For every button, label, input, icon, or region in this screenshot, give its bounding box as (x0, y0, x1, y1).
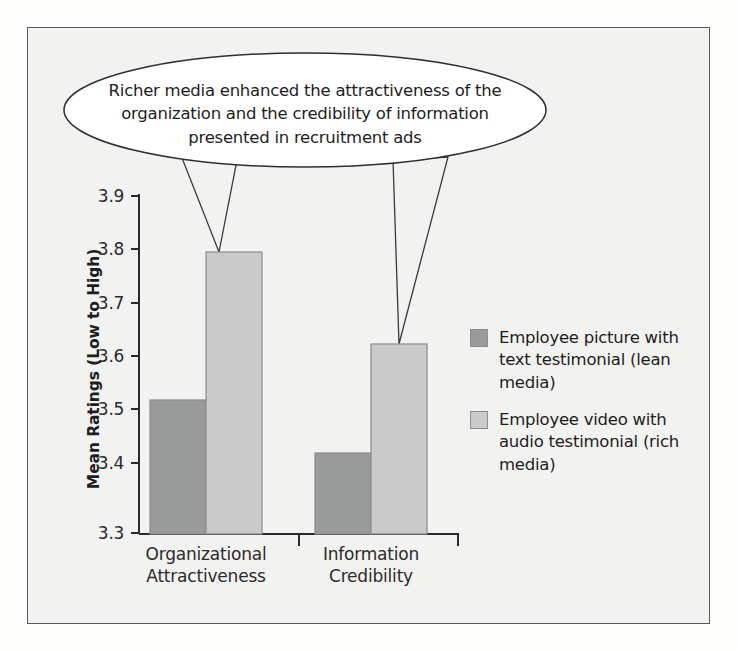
legend-entry-lean-media[interactable]: Employee picture with text testimonial (… (470, 327, 683, 394)
legend-entry-rich-media[interactable]: Employee video with audio testimonial (r… (470, 409, 683, 476)
y-tick-label-3-7: 3.7 (78, 293, 124, 313)
y-tick-label-3-4: 3.4 (78, 453, 124, 473)
callout-annotation-text: Richer media enhanced the attractiveness… (108, 79, 502, 149)
y-tick-label-3-9: 3.9 (78, 186, 124, 206)
y-tick-label-3-8: 3.8 (78, 239, 124, 259)
chart-figure: Richer media enhanced the attractiveness… (0, 0, 737, 651)
callout-pointer-organizational-attractiveness (182, 158, 237, 252)
callout-line-2: organization and the credibility of info… (121, 104, 488, 123)
legend-swatch-rich-media (470, 411, 488, 429)
bar-lean-media-organizational-attractiveness[interactable] (150, 400, 206, 534)
bar-rich-media-organizational-attractiveness[interactable] (206, 252, 262, 534)
cat1-line1: Organizational (145, 544, 266, 564)
x-category-label-information-credibility: Information Credibility (293, 544, 449, 588)
x-category-label-organizational-attractiveness: Organizational Attractiveness (126, 544, 286, 588)
cat2-line2: Credibility (329, 566, 413, 586)
legend-label-rich-media: Employee video with audio testimonial (r… (499, 409, 683, 476)
y-tick-label-3-3: 3.3 (78, 523, 124, 543)
callout-line-3: presented in recruitment ads (188, 128, 421, 147)
cat1-line2: Attractiveness (146, 566, 265, 586)
cat2-line1: Information (323, 544, 419, 564)
y-tick-label-3-6: 3.6 (78, 346, 124, 366)
legend-label-lean-media: Employee picture with text testimonial (… (499, 327, 683, 394)
bar-rich-media-information-credibility[interactable] (371, 344, 427, 534)
y-tick-label-3-5: 3.5 (78, 399, 124, 419)
legend-swatch-lean-media (470, 329, 488, 347)
callout-line-1: Richer media enhanced the attractiveness… (109, 81, 502, 100)
callout-pointer-information-credibility (393, 157, 448, 344)
bar-lean-media-information-credibility[interactable] (315, 453, 371, 534)
y-axis-ticks (131, 196, 139, 533)
